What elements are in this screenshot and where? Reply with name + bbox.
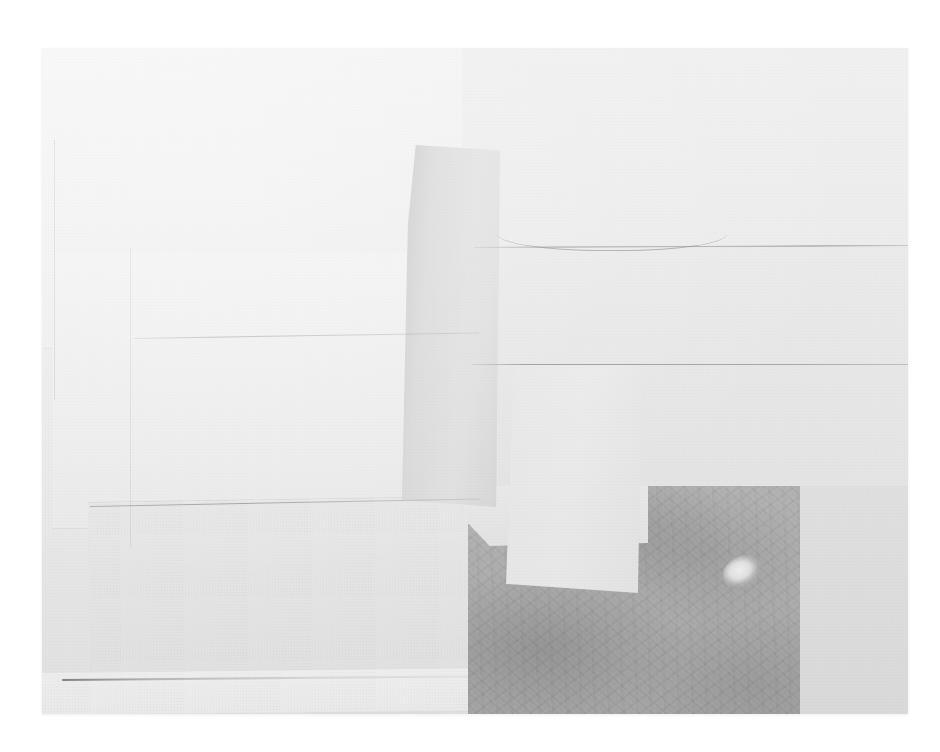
collage-artwork: [42, 48, 908, 714]
seam-left-b: [130, 248, 131, 548]
crease-mid: [472, 364, 908, 365]
strip-tall-shading: [402, 145, 500, 507]
image-title: [0, 0, 1, 1]
panel-vert: [506, 366, 642, 593]
right-field: [800, 486, 908, 714]
seam-left-a: [54, 140, 55, 400]
sheet-right-band: [472, 245, 908, 365]
sheet-upper-right: [462, 48, 908, 248]
image-caption: [0, 0, 1, 1]
image-canvas: [0, 0, 940, 752]
